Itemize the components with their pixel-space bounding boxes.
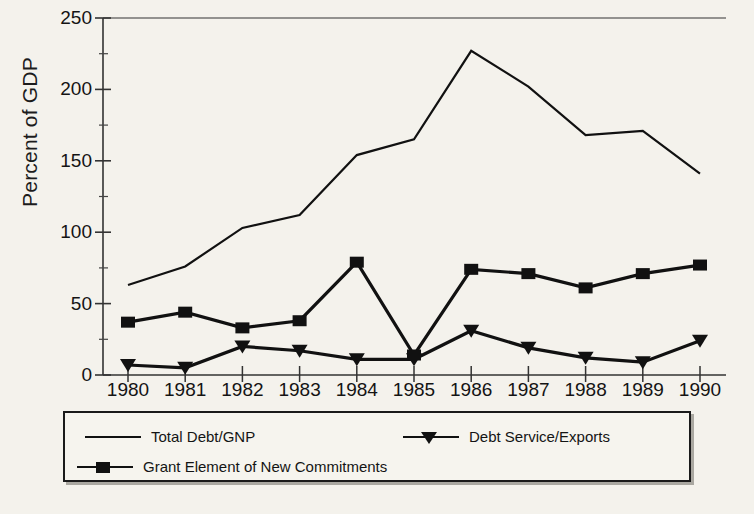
data-point-marker — [407, 350, 421, 361]
legend-entry-debt-service: Debt Service/Exports — [403, 428, 610, 445]
x-tick-label: 1987 — [507, 379, 549, 401]
legend-entry-grant-element: Grant Element of New Commitments — [77, 458, 387, 475]
legend-label: Debt Service/Exports — [469, 428, 610, 445]
series-total-debt-gnp — [128, 51, 700, 285]
y-tick-label: 200 — [60, 78, 92, 100]
legend-line-icon — [85, 430, 141, 444]
data-point-marker — [350, 257, 364, 268]
y-axis-title: Percent of GDP — [18, 12, 42, 252]
legend-square-icon — [77, 460, 133, 474]
x-tick-label: 1990 — [679, 379, 721, 401]
series-line — [128, 51, 700, 285]
legend-label: Total Debt/GNP — [151, 428, 255, 445]
y-tick-label: 250 — [60, 7, 92, 29]
data-point-marker — [579, 282, 593, 293]
legend-triangle-down-icon — [403, 430, 459, 444]
axis-lines — [103, 18, 726, 375]
y-tick-label: 0 — [81, 364, 92, 386]
x-tick-label: 1988 — [564, 379, 606, 401]
x-tick-label: 1986 — [450, 379, 492, 401]
x-tick-label: 1985 — [393, 379, 435, 401]
y-tick-label: 50 — [71, 293, 92, 315]
series-line — [128, 262, 700, 355]
x-tick-label: 1989 — [622, 379, 664, 401]
x-tick-label: 1983 — [278, 379, 320, 401]
y-tick-label: 150 — [60, 150, 92, 172]
data-series-layer — [120, 51, 708, 375]
data-point-marker — [121, 317, 135, 328]
y-tick-label: 100 — [60, 221, 92, 243]
chart-legend: Total Debt/GNP Debt Service/Exports Gran… — [63, 411, 691, 482]
series-grant-element-of-new-commitments — [121, 257, 707, 361]
data-point-marker — [636, 268, 650, 279]
data-point-marker — [178, 307, 192, 318]
x-tick-label: 1980 — [107, 379, 149, 401]
data-point-marker — [521, 268, 535, 279]
legend-entry-total-debt: Total Debt/GNP — [85, 428, 255, 445]
data-point-marker — [293, 315, 307, 326]
chart-figure: Percent of GDP 250 200 150 100 50 0 1980… — [0, 0, 754, 514]
data-point-marker — [693, 260, 707, 271]
data-point-marker — [235, 322, 249, 333]
legend-label: Grant Element of New Commitments — [143, 458, 387, 475]
x-tick-label: 1981 — [164, 379, 206, 401]
data-point-marker — [464, 264, 478, 275]
x-tick-label: 1984 — [336, 379, 378, 401]
x-tick-label: 1982 — [221, 379, 263, 401]
